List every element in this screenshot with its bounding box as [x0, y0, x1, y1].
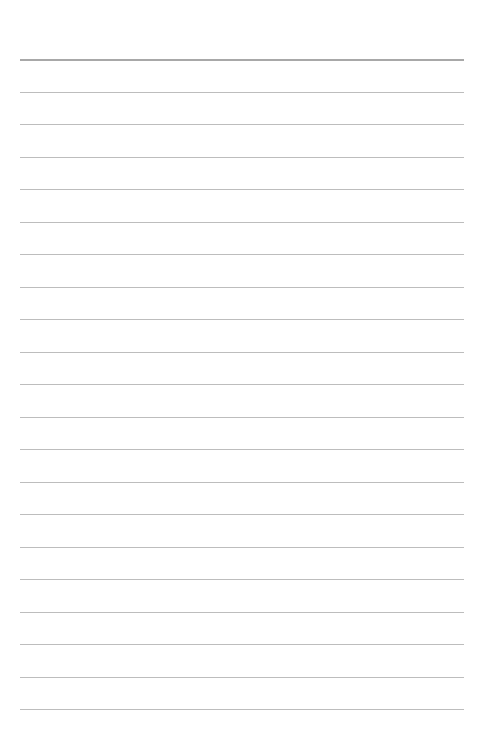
ruled-line	[20, 514, 464, 515]
lined-paper-page	[0, 0, 484, 740]
ruled-line	[20, 547, 464, 548]
ruled-line	[20, 709, 464, 710]
ruled-line	[20, 579, 464, 580]
ruled-line	[20, 189, 464, 190]
header-rule-line	[20, 59, 464, 61]
ruled-line	[20, 222, 464, 223]
ruled-line	[20, 319, 464, 320]
ruled-line	[20, 92, 464, 93]
ruled-line	[20, 254, 464, 255]
ruled-line	[20, 157, 464, 158]
ruled-line	[20, 644, 464, 645]
ruled-line	[20, 677, 464, 678]
ruled-line	[20, 352, 464, 353]
ruled-line	[20, 612, 464, 613]
ruled-line	[20, 417, 464, 418]
ruled-line	[20, 384, 464, 385]
ruled-line	[20, 449, 464, 450]
ruled-line	[20, 482, 464, 483]
ruled-line	[20, 124, 464, 125]
ruled-line	[20, 287, 464, 288]
